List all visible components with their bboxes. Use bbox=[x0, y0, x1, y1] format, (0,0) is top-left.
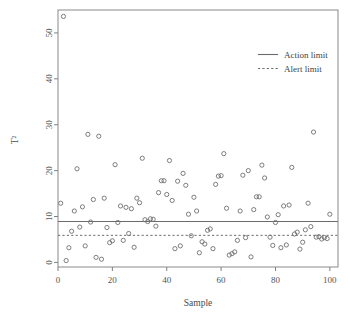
x-axis-title: Sample bbox=[184, 298, 213, 308]
y-tick-label: 10 bbox=[44, 212, 54, 222]
x-tick-label: 40 bbox=[162, 275, 172, 285]
x-tick-label: 100 bbox=[323, 275, 337, 285]
x-tick-label: 80 bbox=[271, 275, 281, 285]
t2-control-chart: 020406080100 01020304050 Sample T² Actio… bbox=[0, 0, 350, 322]
chart-background bbox=[0, 0, 350, 322]
y-tick-label: 0 bbox=[44, 260, 54, 265]
legend-action-limit-label: Action limit bbox=[284, 50, 328, 60]
x-tick-label: 20 bbox=[108, 275, 118, 285]
y-tick-label: 30 bbox=[44, 120, 54, 130]
chart-container: 020406080100 01020304050 Sample T² Actio… bbox=[0, 0, 350, 322]
y-tick-label: 20 bbox=[44, 166, 54, 176]
x-tick-label: 60 bbox=[217, 275, 227, 285]
y-axis-title: T² bbox=[10, 136, 20, 145]
y-tick-label: 50 bbox=[44, 28, 54, 38]
x-tick-label: 0 bbox=[56, 275, 61, 285]
y-tick-label: 40 bbox=[44, 74, 54, 84]
legend-alert-limit-label: Alert limit bbox=[284, 64, 322, 74]
